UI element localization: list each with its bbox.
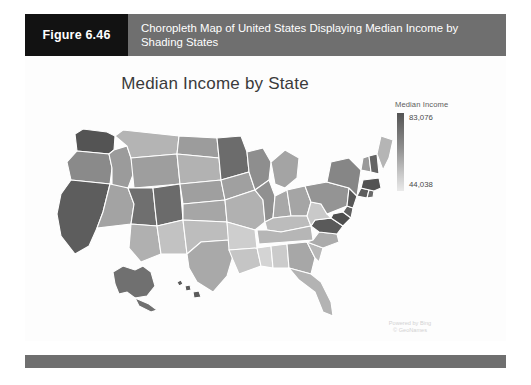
legend-scale: 83,076 44,038 xyxy=(395,113,500,191)
state-hawaii-1[interactable] xyxy=(177,280,183,286)
figure-caption-box: Choropleth Map of United States Displayi… xyxy=(128,14,506,56)
state-colorado[interactable] xyxy=(153,184,183,226)
state-massachusetts[interactable] xyxy=(361,178,381,191)
state-alabama[interactable] xyxy=(271,244,289,268)
state-louisiana[interactable] xyxy=(229,248,261,274)
figure-container: Figure 6.46 Choropleth Map of United Sta… xyxy=(0,0,531,385)
state-new-hampshire[interactable] xyxy=(369,154,379,174)
state-hawaii-3[interactable] xyxy=(193,291,201,298)
figure-bottom-rule xyxy=(25,355,506,368)
us-states-map-svg xyxy=(31,96,403,336)
choropleth-map[interactable] xyxy=(31,96,403,336)
figure-caption-bar: Figure 6.46 Choropleth Map of United Sta… xyxy=(25,14,506,56)
attribution-bing: Powered by Bing xyxy=(355,320,465,327)
state-alaska-tail[interactable] xyxy=(135,298,157,312)
state-alaska[interactable] xyxy=(113,266,155,298)
state-kansas[interactable] xyxy=(183,200,227,222)
state-arizona[interactable] xyxy=(129,224,161,262)
map-legend: Median Income 83,076 44,038 xyxy=(395,100,500,191)
state-washington[interactable] xyxy=(75,129,115,154)
state-maine[interactable] xyxy=(377,136,393,170)
state-new-mexico[interactable] xyxy=(157,220,187,254)
figure-number-label: Figure 6.46 xyxy=(42,28,110,42)
legend-title: Median Income xyxy=(395,100,500,109)
legend-min-value: 44,038 xyxy=(409,180,433,189)
figure-body: Median Income by State Median Income 83,… xyxy=(25,56,506,341)
chart-title: Median Income by State xyxy=(25,74,405,94)
state-hawaii-2[interactable] xyxy=(185,285,191,291)
state-florida[interactable] xyxy=(289,268,333,316)
state-oregon[interactable] xyxy=(67,151,112,184)
figure-number-box: Figure 6.46 xyxy=(25,14,128,56)
attribution-geonames: © GeoNames xyxy=(355,327,465,334)
legend-max-value: 83,076 xyxy=(409,113,433,122)
figure-caption-text: Choropleth Map of United States Displayi… xyxy=(141,21,476,49)
state-texas[interactable] xyxy=(187,240,233,292)
map-attribution: Powered by Bing © GeoNames xyxy=(355,320,465,334)
state-wyoming[interactable] xyxy=(131,154,180,188)
state-michigan[interactable] xyxy=(271,150,299,188)
state-south-dakota[interactable] xyxy=(177,154,221,184)
